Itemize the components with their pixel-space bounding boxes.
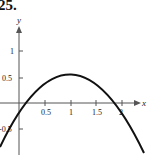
x-tick-label: 1 <box>69 108 73 117</box>
x-tick-label: 1.5 <box>92 108 102 117</box>
x-tick-label: 0.5 <box>41 108 51 117</box>
y-axis-label: y <box>16 15 21 25</box>
x-axis-arrow-icon <box>134 100 141 106</box>
x-axis-label: x <box>141 98 146 108</box>
y-tick-label: 1 <box>10 47 14 56</box>
parabola-chart: 0.5 1 1.5 2 1 0.5 -0.5 x y <box>0 0 151 168</box>
y-ticks <box>19 51 23 129</box>
y-tick-label: 0.5 <box>2 74 12 83</box>
y-axis-arrow-icon <box>16 26 22 33</box>
